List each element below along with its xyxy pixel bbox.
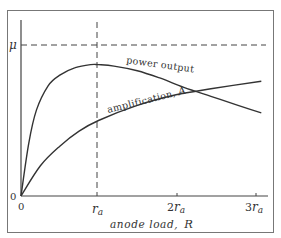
x-label-ra: ra [92,202,103,217]
x-label-3ra: 3ra [245,200,263,215]
amplification-label: amplification,A [106,84,188,115]
y-label-mu: μ [9,38,17,52]
figure-frame [8,11,274,233]
power-output-label: power output [126,54,195,74]
x-label-origin: 0 [18,201,24,212]
y-label-origin: 0 [10,191,16,202]
x-label-2ra: 2ra [167,200,185,215]
x-axis-title: anode load,R [110,217,193,231]
chart: 0 μ 0 ra 2ra 3ra anode load,R power outp… [0,0,281,238]
power-output-curve [21,64,261,196]
